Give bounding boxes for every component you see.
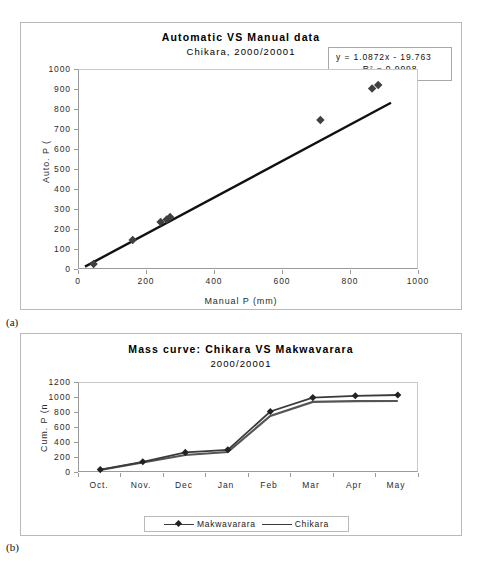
chart-a-ytick-900: 900 bbox=[31, 84, 71, 94]
chart-b-xtick-mar: Mar bbox=[302, 480, 319, 490]
chart-b-ytick-400: 400 bbox=[29, 437, 71, 447]
trendline-equation: y = 1.0872x - 19.763 bbox=[336, 51, 444, 63]
chart-b-xtickmark bbox=[163, 473, 164, 477]
chart-a-ytick-200: 200 bbox=[31, 224, 71, 234]
chart-b-xtickmark bbox=[205, 473, 206, 477]
chart-b-xtick-feb: Feb bbox=[260, 480, 277, 490]
chart-a-xtick-800: 800 bbox=[342, 276, 359, 286]
figure-label-a: (a) bbox=[6, 316, 18, 328]
chart-a-x-axis-title: Manual P (mm) bbox=[21, 296, 461, 306]
chart-b-xtick-jan: Jan bbox=[218, 480, 234, 490]
chart-b-ytick-1000: 1000 bbox=[29, 392, 71, 402]
chart-b-xtick-apr: Apr bbox=[346, 480, 362, 490]
legend-item-chikara[interactable]: Chikara bbox=[262, 519, 329, 529]
chart-b-plot-area bbox=[78, 382, 418, 472]
chart-b-xtickmark bbox=[375, 473, 376, 477]
chart-automatic-vs-manual: Automatic VS Manual data Chikara, 2000/2… bbox=[20, 22, 462, 310]
chart-a-ytick-500: 500 bbox=[31, 164, 71, 174]
chart-a-ytick-800: 800 bbox=[31, 104, 71, 114]
chart-a-ytick-0: 0 bbox=[31, 264, 71, 274]
chart-b-xtick-dec: Dec bbox=[175, 480, 193, 490]
chart-a-ytick-1000: 1000 bbox=[31, 64, 71, 74]
chart-b-ytick-0: 0 bbox=[29, 467, 71, 477]
chart-a-ytick-700: 700 bbox=[31, 124, 71, 134]
legend-item-makwavarara[interactable]: Makwavarara bbox=[164, 519, 256, 529]
chart-a-title: Automatic VS Manual data bbox=[21, 31, 461, 43]
chart-b-xtickmark bbox=[78, 473, 79, 477]
chart-a-ytick-100: 100 bbox=[31, 244, 71, 254]
chart-a-xtickmark bbox=[78, 270, 79, 274]
chart-b-xtickmark bbox=[333, 473, 334, 477]
chart-b-xtickmark bbox=[290, 473, 291, 477]
series-makwavarara-markers bbox=[97, 391, 402, 473]
chart-a-xtick-600: 600 bbox=[274, 276, 291, 286]
chart-a-xtick-1000: 1000 bbox=[407, 276, 430, 286]
chart-a-data-layer bbox=[79, 70, 419, 270]
series-chikara-line bbox=[100, 401, 398, 470]
chart-a-xtickmark bbox=[146, 270, 147, 274]
chart-b-title: Mass curve: Chikara VS Makwavarara bbox=[21, 343, 461, 355]
chart-b-ytick-800: 800 bbox=[29, 407, 71, 417]
chart-b-ytick-200: 200 bbox=[29, 452, 71, 462]
legend-label-chikara: Chikara bbox=[295, 519, 329, 529]
legend-label-makwavarara: Makwavarara bbox=[197, 519, 256, 529]
chart-b-xtick-may: May bbox=[387, 480, 406, 490]
chart-b-xtickmark bbox=[120, 473, 121, 477]
chart-b-xtickmark bbox=[418, 473, 419, 477]
chart-a-ytick-600: 600 bbox=[31, 144, 71, 154]
chart-b-ytick-1200: 1200 bbox=[29, 377, 71, 387]
chart-b-subtitle: 2000/20001 bbox=[21, 358, 461, 369]
chart-b-data-layer bbox=[79, 383, 419, 473]
figure-label-b: (b) bbox=[6, 541, 19, 553]
chart-b-ytick-600: 600 bbox=[29, 422, 71, 432]
chart-b-xtick-nov: Nov. bbox=[131, 480, 151, 490]
chart-a-ytick-300: 300 bbox=[31, 204, 71, 214]
chart-a-xtick-200: 200 bbox=[138, 276, 155, 286]
page-top-faint-text bbox=[0, 0, 481, 12]
legend-marker-line-icon bbox=[262, 520, 292, 529]
chart-b-xtickmark bbox=[248, 473, 249, 477]
chart-a-xtickmark bbox=[214, 270, 215, 274]
series-makwavarara-line bbox=[100, 395, 398, 470]
chart-b-legend: Makwavarara Chikara bbox=[144, 516, 349, 532]
chart-a-plot-area bbox=[78, 69, 418, 269]
chart-a-xtickmark bbox=[282, 270, 283, 274]
chart-a-xtickmark bbox=[418, 270, 419, 274]
scatter-points bbox=[89, 81, 382, 268]
chart-b-xtick-oct: Oct. bbox=[89, 480, 108, 490]
chart-a-xtick-400: 400 bbox=[206, 276, 223, 286]
chart-a-xtickmark bbox=[350, 270, 351, 274]
chart-a-xtick-0: 0 bbox=[75, 276, 81, 286]
chart-mass-curve: Mass curve: Chikara VS Makwavarara 2000/… bbox=[20, 333, 462, 536]
legend-marker-diamond-icon bbox=[164, 520, 194, 529]
chart-a-ytick-400: 400 bbox=[31, 184, 71, 194]
